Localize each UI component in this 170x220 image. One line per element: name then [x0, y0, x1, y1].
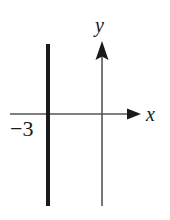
x-axis-label: x: [146, 104, 155, 124]
x-axis-arrowhead-icon: [127, 109, 141, 120]
graph-canvas: [0, 0, 170, 220]
y-axis-label: y: [95, 15, 104, 35]
x-intercept-label: −3: [10, 118, 33, 140]
coordinate-plane-figure: y x −3: [0, 0, 170, 220]
